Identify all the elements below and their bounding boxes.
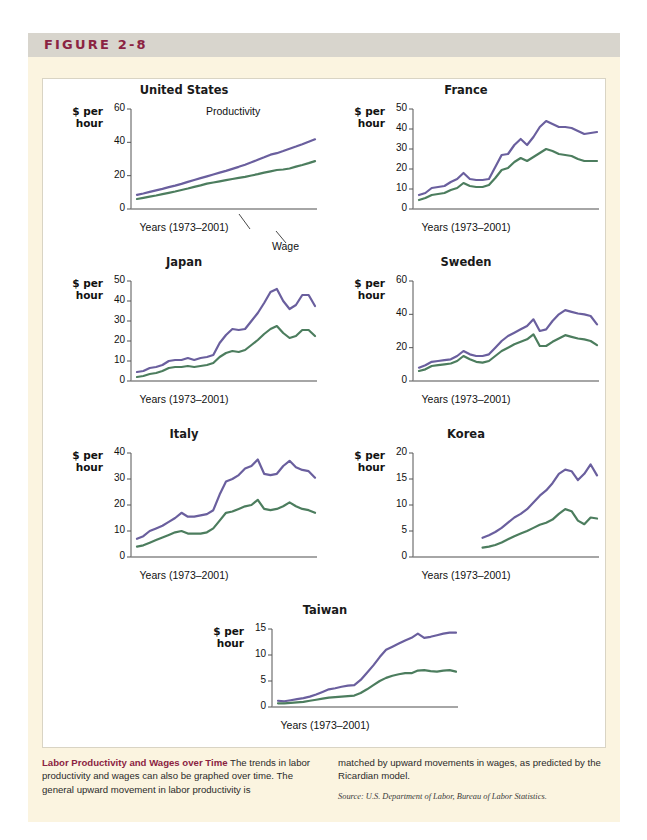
series-line-wage — [137, 500, 315, 547]
figure-caption: Labor Productivity and Wages over Time T… — [42, 756, 608, 816]
chart-cell-france: France$ perhour01020304050Years (1973–20… — [325, 83, 607, 251]
plot-area — [325, 83, 607, 251]
chart-cell-japan: Japan$ perhour01020304050Years (1973–200… — [43, 255, 325, 423]
charts-panel: United States$ perhour0204060Years (1973… — [42, 78, 606, 748]
chart-cell-italy: Italy$ perhour010203040Years (1973–2001) — [43, 427, 325, 599]
series-line-wage — [137, 161, 315, 199]
series-line-productivity — [137, 139, 315, 195]
series-line-wage — [419, 334, 597, 371]
caption-right-text: matched by upward movements in wages, as… — [338, 757, 601, 781]
caption-title: Labor Productivity and Wages over Time — [42, 757, 228, 768]
plot-area — [325, 255, 607, 423]
chart-cell-korea: Korea$ perhour05101520Years (1973–2001) — [325, 427, 607, 599]
series-line-productivity — [483, 464, 597, 537]
chart-cell-sweden: Sweden$ perhour0204060Years (1973–2001) — [325, 255, 607, 423]
caption-source: Source: U.S. Department of Labor, Bureau… — [338, 790, 610, 803]
series-line-productivity — [137, 460, 315, 539]
plot-area — [184, 603, 466, 749]
series-line-wage — [419, 149, 597, 200]
plot-area — [43, 83, 325, 251]
plot-area — [325, 427, 607, 599]
series-line-productivity — [419, 310, 597, 368]
caption-left-column: Labor Productivity and Wages over Time T… — [42, 756, 314, 796]
plot-area — [43, 427, 325, 599]
figure-page: FIGURE 2-8 United States$ perhour0204060… — [0, 0, 647, 840]
plot-area — [43, 255, 325, 423]
chart-cell-taiwan: Taiwan$ perhour051015Years (1973–2001) — [184, 603, 466, 749]
productivity-annotation: Productivity — [206, 105, 260, 117]
series-line-productivity — [278, 633, 456, 702]
chart-cell-united-states: United States$ perhour0204060Years (1973… — [43, 83, 325, 251]
series-line-productivity — [419, 121, 597, 195]
caption-right-column: matched by upward movements in wages, as… — [338, 756, 610, 803]
series-line-productivity — [137, 289, 315, 372]
wage-annotation: Wage — [272, 240, 299, 252]
figure-number-label: FIGURE 2-8 — [44, 37, 148, 52]
